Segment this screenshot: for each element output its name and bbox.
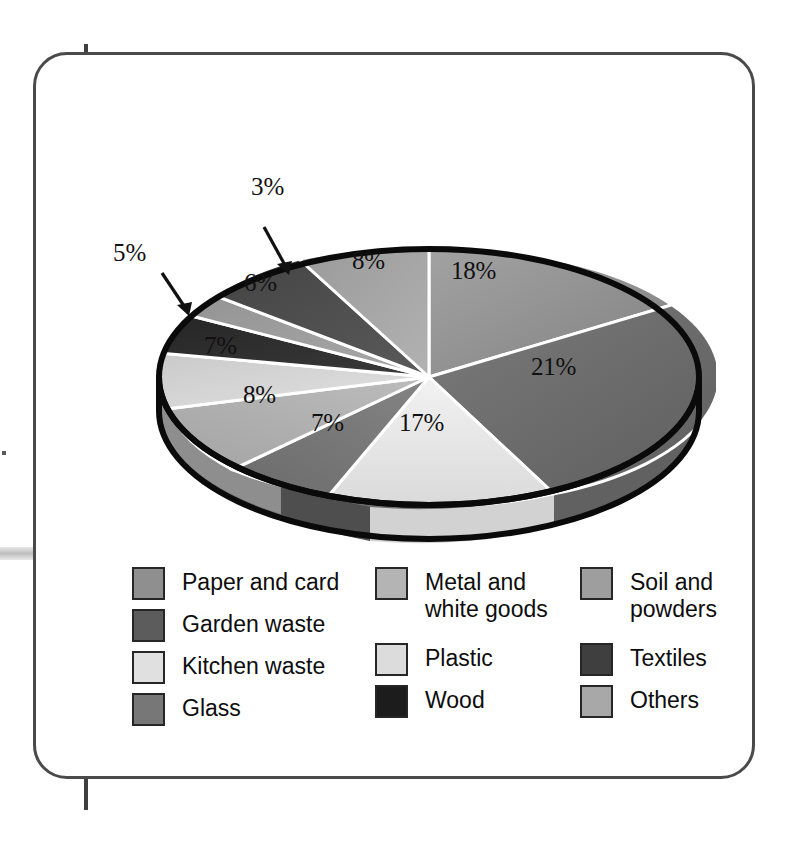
legend-label-glass: Glass <box>182 693 241 722</box>
slice-label-metal-and-white-goods: 8% <box>243 381 276 409</box>
legend-swatch-paper-and-card <box>132 567 165 600</box>
legend-column-1: Paper and card Garden waste Kitchen wast… <box>132 567 372 735</box>
legend-label-metal-line2: white goods <box>425 596 548 623</box>
legend-item-kitchen-waste[interactable]: Kitchen waste <box>132 651 372 684</box>
legend-item-plastic[interactable]: Plastic <box>375 643 575 676</box>
legend-swatch-glass <box>132 693 165 726</box>
legend-swatch-metal-and-white-goods <box>375 567 408 600</box>
legend-item-soil-and-powders[interactable]: Soil and powders <box>580 567 750 623</box>
legend-label-paper-and-card: Paper and card <box>182 567 339 596</box>
legend-label-metal-line1: Metal and <box>425 569 526 595</box>
slice-label-others: 8% <box>352 247 385 275</box>
legend-swatch-garden-waste <box>132 609 165 642</box>
slice-label-textiles: 6% <box>244 269 277 297</box>
legend-label-textiles: Textiles <box>630 643 707 672</box>
pie-chart-svg <box>156 215 716 545</box>
legend-item-wood[interactable]: Wood <box>375 685 575 718</box>
legend-swatch-wood <box>375 685 408 718</box>
legend-label-plastic: Plastic <box>425 643 493 672</box>
slice-label-kitchen-waste: 17% <box>399 409 444 437</box>
legend-label-metal-and-white-goods: Metal and white goods <box>425 567 548 623</box>
legend-label-wood: Wood <box>425 685 485 714</box>
slice-label-garden-waste: 21% <box>531 353 576 381</box>
legend-label-others: Others <box>630 685 699 714</box>
legend-swatch-textiles <box>580 643 613 676</box>
callout-label-3-percent: 3% <box>251 173 284 201</box>
legend-column-3: Soil and powders Textiles Others <box>580 567 750 727</box>
legend-label-garden-waste: Garden waste <box>182 609 325 638</box>
legend-label-kitchen-waste: Kitchen waste <box>182 651 325 680</box>
legend-item-others[interactable]: Others <box>580 685 750 718</box>
figure-frame: 18% 21% 17% 7% 8% 7% 6% 8% 3% 5% Paper a… <box>33 52 755 779</box>
legend-swatch-kitchen-waste <box>132 651 165 684</box>
legend-item-textiles[interactable]: Textiles <box>580 643 750 676</box>
legend-swatch-others <box>580 685 613 718</box>
legend-swatch-plastic <box>375 643 408 676</box>
legend-item-garden-waste[interactable]: Garden waste <box>132 609 372 642</box>
pie-chart: 18% 21% 17% 7% 8% 7% 6% 8% 3% 5% <box>156 215 716 545</box>
page-edge-dot <box>2 451 6 455</box>
legend-item-glass[interactable]: Glass <box>132 693 372 726</box>
legend-item-metal-and-white-goods[interactable]: Metal and white goods <box>375 567 575 623</box>
slice-label-glass: 7% <box>311 409 344 437</box>
chart-legend: Paper and card Garden waste Kitchen wast… <box>132 567 732 767</box>
slice-label-paper-and-card: 18% <box>451 257 496 285</box>
legend-label-soil-and-powders: Soil and powders <box>630 567 717 623</box>
legend-label-soil-line2: powders <box>630 596 717 623</box>
callout-label-5-percent: 5% <box>113 239 146 267</box>
slice-label-plastic: 7% <box>204 332 237 360</box>
callout-arrow-5-percent <box>162 273 192 316</box>
legend-label-soil-line1: Soil and <box>630 569 713 595</box>
legend-swatch-soil-and-powders <box>580 567 613 600</box>
legend-item-paper-and-card[interactable]: Paper and card <box>132 567 372 600</box>
legend-column-2: Metal and white goods Plastic Wood <box>375 567 575 727</box>
